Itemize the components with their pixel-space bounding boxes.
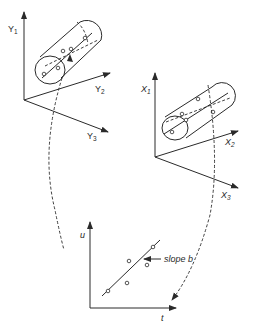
data-point [125, 281, 129, 285]
data-point [127, 259, 131, 263]
data-point [83, 36, 87, 40]
mapping-curve-right [172, 85, 215, 300]
u-axis-label: u [80, 230, 85, 240]
data-point [184, 118, 188, 122]
data-point [151, 245, 155, 249]
data-point [69, 47, 73, 51]
y1-label: Y1 [8, 24, 18, 35]
x3-axis [155, 157, 238, 188]
regression-plot: u t slope b [80, 222, 193, 323]
t-axis-label: t [161, 313, 164, 323]
x3-label: X3 [220, 190, 231, 201]
mapping-curve-left [49, 78, 64, 250]
slope-label: slope b [164, 254, 193, 264]
cylinder-dashed-line [45, 40, 98, 66]
data-point [180, 112, 184, 116]
data-point [56, 66, 60, 70]
y3-label: Y3 [87, 131, 97, 142]
x1-label: X1 [140, 84, 151, 95]
y2-label: Y2 [95, 84, 105, 95]
x2-label: X2 [224, 137, 235, 148]
data-point [42, 72, 46, 76]
data-point [61, 49, 65, 53]
y-data-cylinder [35, 20, 102, 84]
x-data-cylinder [162, 83, 235, 140]
x-coordinate-system: X1 X2 X3 [140, 73, 238, 201]
data-point [145, 263, 149, 267]
cylinder-end [35, 56, 65, 84]
regression-line [102, 240, 160, 296]
cylinder-back-arc [77, 22, 88, 44]
diagram-canvas: Y1 Y2 Y3 X1 X2 X3 [0, 0, 254, 329]
y3-axis [24, 100, 108, 132]
data-point [170, 130, 174, 134]
data-point [106, 289, 110, 293]
y-coordinate-system: Y1 Y2 Y3 [8, 12, 110, 142]
data-point [196, 97, 200, 101]
